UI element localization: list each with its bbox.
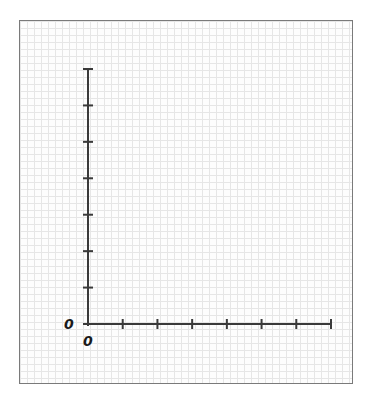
- axes: [0, 0, 373, 409]
- x-axis-origin-label: 0: [83, 334, 93, 348]
- y-axis-origin-label: 0: [64, 317, 74, 331]
